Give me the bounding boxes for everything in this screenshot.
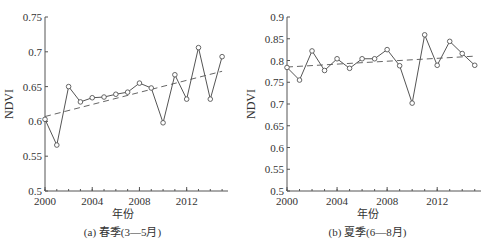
data-point-marker xyxy=(410,101,415,106)
y-tick-label: 0.55 xyxy=(23,150,43,162)
chart-panel-spring: 0.50.550.60.650.70.752000200420082012NDV… xyxy=(0,0,245,249)
y-axis-label: NDVI xyxy=(2,89,16,119)
y-tick-label: 0.7 xyxy=(28,46,42,58)
data-point-marker xyxy=(460,51,465,56)
summer-ndvi-chart: 0.50.550.60.650.70.750.80.850.9200020042… xyxy=(245,0,490,215)
data-point-marker xyxy=(173,72,178,77)
data-point-marker xyxy=(435,63,440,68)
data-point-marker xyxy=(55,143,60,148)
y-tick-label: 0.65 xyxy=(265,120,285,132)
y-tick-label: 0.7 xyxy=(270,98,284,110)
data-point-marker xyxy=(372,56,377,61)
data-point-marker xyxy=(161,120,166,125)
ndvi-series-line xyxy=(287,35,475,103)
data-point-marker xyxy=(285,65,290,70)
data-point-marker xyxy=(220,54,225,59)
data-point-marker xyxy=(208,97,213,102)
data-point-marker xyxy=(310,49,315,54)
y-axis-label: NDVI xyxy=(245,89,258,119)
data-point-marker xyxy=(90,95,95,100)
data-point-marker xyxy=(78,100,83,105)
data-point-marker xyxy=(66,84,71,89)
y-tick-label: 0.55 xyxy=(265,163,285,175)
data-point-marker xyxy=(347,66,352,71)
data-point-marker xyxy=(297,78,302,83)
data-point-marker xyxy=(43,117,48,122)
data-point-marker xyxy=(472,63,477,68)
data-point-marker xyxy=(385,47,390,52)
chart-panel-summer: 0.50.550.60.650.70.750.80.850.9200020042… xyxy=(245,0,490,249)
x-axis-label: 年份 xyxy=(0,205,245,221)
data-point-marker xyxy=(397,63,402,68)
trend-line xyxy=(45,71,222,116)
y-tick-label: 0.65 xyxy=(23,81,43,93)
y-tick-label: 0.75 xyxy=(23,11,43,23)
data-point-marker xyxy=(360,56,365,61)
chart-caption: (a) 春季(3—5月) xyxy=(0,223,245,239)
y-tick-label: 0.6 xyxy=(28,115,42,127)
data-point-marker xyxy=(447,39,452,44)
data-point-marker xyxy=(114,92,119,97)
y-tick-label: 0.85 xyxy=(265,33,285,45)
ndvi-series-line xyxy=(45,48,222,145)
data-point-marker xyxy=(125,90,130,95)
data-point-marker xyxy=(137,81,142,86)
data-point-marker xyxy=(102,95,107,100)
chart-caption: (b) 夏季(6—8月) xyxy=(245,223,490,239)
data-point-marker xyxy=(149,86,154,91)
spring-ndvi-chart: 0.50.550.60.650.70.752000200420082012NDV… xyxy=(0,0,245,215)
data-point-marker xyxy=(196,45,201,50)
data-point-marker xyxy=(322,68,327,73)
data-point-marker xyxy=(335,56,340,61)
x-axis-label: 年份 xyxy=(245,205,490,221)
y-tick-label: 0.8 xyxy=(270,55,284,67)
data-point-marker xyxy=(422,33,427,38)
trend-line xyxy=(287,56,475,67)
y-tick-label: 0.75 xyxy=(265,76,285,88)
y-tick-label: 0.6 xyxy=(270,142,284,154)
data-point-marker xyxy=(184,97,189,102)
y-tick-label: 0.9 xyxy=(270,11,284,23)
